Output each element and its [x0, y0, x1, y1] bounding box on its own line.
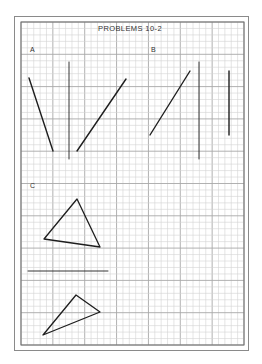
section-a-label: A: [30, 46, 35, 53]
page-title: PROBLEMS 10-2: [98, 24, 162, 33]
section-c-label: C: [30, 182, 35, 189]
worksheet: PROBLEMS 10-2 A B C: [0, 0, 262, 364]
section-b-label: B: [151, 46, 156, 53]
